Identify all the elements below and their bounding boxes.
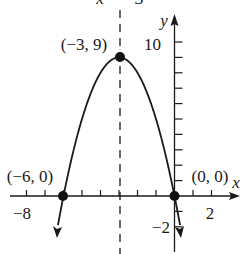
y-axis: [171, 14, 183, 252]
vertex-label: (−3, 9): [61, 35, 107, 54]
tick-label-x-neg8: −8: [13, 204, 31, 223]
y-axis-label: y: [158, 11, 168, 30]
x-axis: [10, 190, 240, 200]
curve-left-arrow-icon: [53, 226, 62, 238]
right-root-point: [170, 191, 180, 201]
axis-of-symmetry-label: x = −3: [95, 0, 144, 8]
graph-canvas: x = −3 y x (−3, 9) (−6, 0) (0, 0) −8 2 1…: [0, 0, 243, 254]
tick-label-y-neg2: −2: [152, 218, 170, 237]
x-axis-label: x: [231, 173, 240, 192]
left-root-point: [58, 191, 68, 201]
parabola-curve: [58, 57, 180, 225]
left-root-label: (−6, 0): [7, 167, 53, 186]
right-root-label: (0, 0): [192, 167, 229, 186]
curve-right-arrow-icon: [175, 226, 184, 238]
vertex-point: [115, 52, 125, 62]
tick-label-y-10: 10: [144, 35, 161, 54]
tick-label-x-2: 2: [206, 204, 215, 223]
parabola-graph: x = −3 y x (−3, 9) (−6, 0) (0, 0) −8 2 1…: [0, 0, 243, 254]
